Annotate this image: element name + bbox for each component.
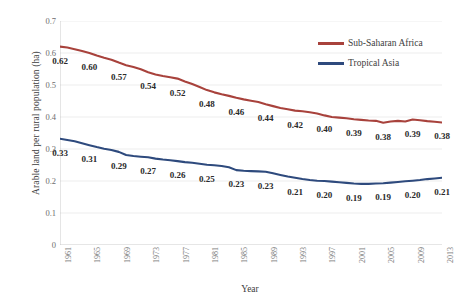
data-label: 0.27 xyxy=(140,166,156,176)
data-label: 0.21 xyxy=(287,187,303,197)
data-label: 0.46 xyxy=(228,107,244,117)
legend-item[interactable]: Sub-Saharan Africa xyxy=(318,33,452,53)
data-label: 0.20 xyxy=(405,190,421,200)
data-label: 0.29 xyxy=(111,161,127,171)
data-label: 0.23 xyxy=(258,181,274,191)
x-tick-label: 1969 xyxy=(123,247,132,263)
data-label: 0.31 xyxy=(82,154,98,164)
data-label: 0.42 xyxy=(287,120,303,130)
data-label: 0.19 xyxy=(375,192,391,202)
data-label: 0.25 xyxy=(199,174,215,184)
x-tick-label: 1961 xyxy=(64,247,73,263)
data-label: 0.52 xyxy=(170,88,186,98)
data-label: 0.33 xyxy=(52,148,68,158)
x-tick-label: 1977 xyxy=(182,247,191,263)
data-label: 0.38 xyxy=(375,132,391,142)
data-label: 0.38 xyxy=(434,131,450,141)
y-tick-label: 0.1 xyxy=(28,208,56,218)
x-tick-label: 1997 xyxy=(328,247,337,263)
data-label: 0.21 xyxy=(434,187,450,197)
data-label: 0.54 xyxy=(140,81,156,91)
y-axis-tick-labels: 00.10.20.30.40.50.60.7 xyxy=(26,21,56,245)
data-label: 0.40 xyxy=(317,124,333,134)
x-tick-label: 1989 xyxy=(270,247,279,263)
data-label: 0.62 xyxy=(52,56,68,66)
data-label: 0.20 xyxy=(317,190,333,200)
x-tick-label: 2001 xyxy=(358,247,367,263)
data-label: 0.39 xyxy=(346,128,362,138)
y-tick-label: 0.4 xyxy=(28,112,56,122)
chart-legend: Sub-Saharan AfricaTropical Asia xyxy=(318,33,452,73)
data-label: 0.57 xyxy=(111,72,127,82)
x-tick-label: 1973 xyxy=(152,247,161,263)
x-tick-label: 1965 xyxy=(93,247,102,263)
y-tick-label: 0.2 xyxy=(28,176,56,186)
x-axis-title: Year xyxy=(60,284,440,294)
data-label: 0.44 xyxy=(258,113,274,123)
legend-line-swatch-icon xyxy=(318,62,344,65)
data-label: 0.26 xyxy=(170,170,186,180)
chart-container: Arable land per rural population (ha) 00… xyxy=(0,0,456,305)
x-tick-label: 2009 xyxy=(417,247,426,263)
x-tick-label: 1985 xyxy=(240,247,249,263)
data-label: 0.23 xyxy=(228,179,244,189)
legend-label: Tropical Asia xyxy=(348,58,399,68)
data-label: 0.48 xyxy=(199,99,215,109)
data-label: 0.19 xyxy=(346,193,362,203)
y-tick-label: 0.7 xyxy=(28,16,56,26)
data-label: 0.39 xyxy=(405,129,421,139)
y-tick-label: 0 xyxy=(28,240,56,250)
x-tick-label: 1981 xyxy=(211,247,220,263)
legend-line-swatch-icon xyxy=(318,42,344,45)
data-label: 0.60 xyxy=(82,62,98,72)
x-tick-label: 1993 xyxy=(299,247,308,263)
legend-item[interactable]: Tropical Asia xyxy=(318,53,452,73)
x-axis-tick-labels: 1961196519691973197719811985198919931997… xyxy=(60,247,442,281)
legend-label: Sub-Saharan Africa xyxy=(348,38,423,48)
x-tick-label: 2005 xyxy=(387,247,396,263)
x-tick-label: 2013 xyxy=(446,247,455,263)
y-tick-label: 0.5 xyxy=(28,80,56,90)
